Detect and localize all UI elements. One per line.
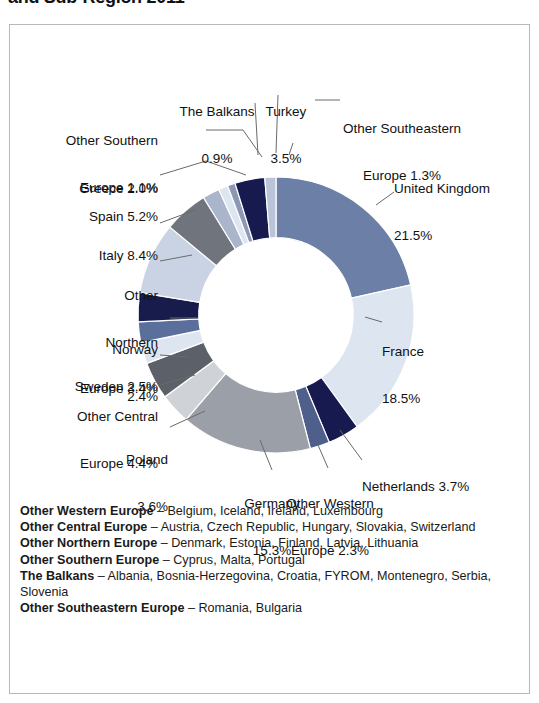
legend-term: Other Western Europe (20, 504, 153, 518)
legend-definition: – Denmark, Estonia, Finland, Latvia, Lit… (157, 536, 418, 550)
label-france: France 18.5% (382, 313, 492, 437)
donut-slices (138, 177, 414, 453)
legend-row: The Balkans – Albania, Bosnia-Herzegovin… (20, 568, 520, 600)
legend-definition: – Romania, Bulgaria (184, 601, 302, 615)
legend-term: Other Southern Europe (20, 553, 159, 567)
donut-chart: The Balkans 0.9% Turkey 3.5% Other South… (10, 25, 529, 495)
legend-term: Other Northern Europe (20, 536, 157, 550)
legend-term: Other Central Europe (20, 520, 147, 534)
legend-term: The Balkans (20, 569, 94, 583)
legend-row: Other Northern Europe – Denmark, Estonia… (20, 535, 520, 551)
legend-row: Other Southeastern Europe – Romania, Bul… (20, 600, 520, 616)
legend-term: Other Southeastern Europe (20, 601, 184, 615)
label-turkey: Turkey 3.5% (250, 73, 322, 197)
legend-row: Other Central Europe – Austria, Czech Re… (20, 519, 520, 535)
legend-definitions: Other Western Europe – Belgium, Iceland,… (20, 503, 520, 616)
legend-definition: – Austria, Czech Republic, Hungary, Slov… (147, 520, 475, 534)
legend-row: Other Western Europe – Belgium, Iceland,… (20, 503, 520, 519)
legend-definition: – Belgium, Iceland, Ireland, Luxembourg (153, 504, 383, 518)
label-united-kingdom: United Kingdom 21.5% (394, 150, 524, 274)
chart-frame: The Balkans 0.9% Turkey 3.5% Other South… (9, 24, 530, 694)
page-title: and Sub-Region 2011 (8, 0, 184, 8)
legend-definition: – Cyprus, Malta, Portugal (159, 553, 305, 567)
legend-row: Other Southern Europe – Cyprus, Malta, P… (20, 552, 520, 568)
